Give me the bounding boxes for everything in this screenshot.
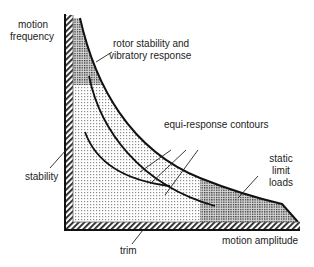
rotor-label-line1: rotor stability and [113, 38, 189, 49]
x-axis-label: motion amplitude [222, 235, 299, 246]
trim-leader-line [132, 230, 143, 244]
trim-label: trim [120, 245, 137, 256]
stability-leader-line [50, 150, 66, 168]
static-label-line3: loads [269, 177, 293, 188]
contours-label: equi-response contours [164, 119, 269, 130]
stability-label: stability [25, 171, 58, 182]
stability-band [65, 15, 73, 230]
y-axis-label-line2: frequency [10, 31, 54, 42]
static-label-line2: limit [272, 165, 290, 176]
rotor-label-line2: vibratory response [109, 50, 192, 61]
trim-band [65, 222, 300, 230]
y-axis-label-line1: motion [18, 19, 48, 30]
response-envelope-diagram: motion frequency rotor stability and vib… [0, 0, 314, 267]
static-label-line1: static [269, 153, 292, 164]
